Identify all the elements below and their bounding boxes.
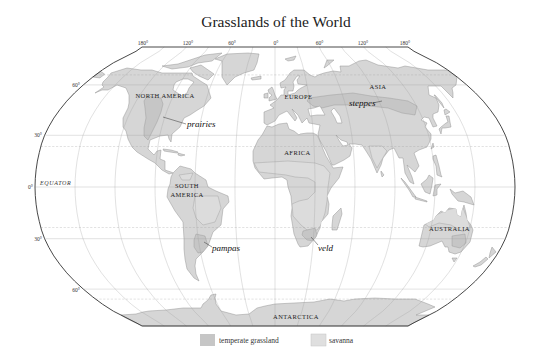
label-pampas: pampas <box>211 243 240 253</box>
longitude-label-180w: 180° <box>138 40 148 46</box>
label-asia: ASIA <box>370 83 387 90</box>
temperate-grassland-swatch <box>200 334 215 346</box>
sumatra-landmass <box>401 178 416 197</box>
savanna-legend-label: savanna <box>329 336 354 345</box>
novaya-zemlya-landmass <box>324 60 334 68</box>
madagascar-landmass <box>332 208 342 230</box>
antarctica-landmass <box>121 294 435 326</box>
cuba-landmass <box>163 149 178 153</box>
meridian-30w <box>235 47 253 326</box>
latitude-label-30s: 30° <box>34 236 42 242</box>
longitude-label-0: 0° <box>274 40 279 46</box>
longitude-label-120e: 120° <box>358 40 368 46</box>
label-south-america-line1: SOUTH <box>175 182 199 189</box>
longitude-label-60w: 60° <box>228 40 236 46</box>
label-steppes: steppes <box>349 98 376 108</box>
great-britain-landmass <box>268 87 277 101</box>
new-guinea-landmass <box>450 189 474 205</box>
frame-west-edge <box>35 47 142 326</box>
label-australia: AUSTRALIA <box>429 225 470 232</box>
arctic-islands-landmass <box>162 53 222 69</box>
equator-label: EQUATOR <box>39 180 71 186</box>
borneo-landmass <box>421 175 433 194</box>
temperate-grassland-legend-label: temperate grassland <box>219 336 279 345</box>
hokkaido-landmass <box>444 109 450 115</box>
hispaniola-landmass <box>178 153 185 156</box>
new-zealand-north-landmass <box>489 247 496 258</box>
greenland-landmass <box>215 53 259 85</box>
japan-landmass <box>439 116 451 134</box>
legend-item-temperate-grassland: temperate grassland <box>200 334 279 346</box>
java-landmass <box>415 197 427 202</box>
longitude-label-60e: 60° <box>316 40 324 46</box>
latitude-label-30n: 30° <box>34 132 42 138</box>
map-title: Grasslands of the World <box>201 13 351 30</box>
longitude-label-120w: 120° <box>183 40 193 46</box>
latitude-label-60n: 60° <box>72 82 80 88</box>
label-europe: EUROPE <box>285 93 313 100</box>
savanna-india <box>369 146 387 168</box>
label-veld: veld <box>318 243 333 253</box>
label-africa: AFRICA <box>284 149 311 156</box>
label-north-america: NORTH AMERICA <box>135 92 194 99</box>
longitude-labels: 180° 120° 60° 0° 60° 120° 180° <box>138 40 410 46</box>
legend: temperate grassland savanna <box>200 334 354 346</box>
savanna-swatch <box>311 334 326 346</box>
longitude-label-180e: 180° <box>400 40 410 46</box>
sri-lanka-landmass <box>381 171 384 177</box>
world-grasslands-map: Grasslands of the World <box>0 0 540 364</box>
label-antarctica: ANTARCTICA <box>273 313 319 320</box>
latitude-label-0: 0° <box>28 184 33 190</box>
sulawesi-landmass <box>433 184 441 196</box>
ireland-landmass <box>264 93 268 98</box>
legend-item-savanna: savanna <box>311 334 354 346</box>
latitude-label-60s: 60° <box>72 287 80 293</box>
label-prairies: prairies <box>186 119 216 129</box>
iceland-landmass <box>251 76 261 80</box>
new-zealand-south-landmass <box>473 257 488 267</box>
label-south-america-line2: AMERICA <box>170 191 203 198</box>
svalbard-landmass <box>285 56 296 61</box>
